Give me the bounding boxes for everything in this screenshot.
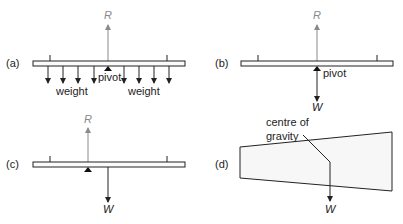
reaction-symbol: R [84,113,92,125]
beam [33,162,185,167]
weight-symbol: W [103,203,115,215]
panel-b: (b) R pivot W [215,9,393,113]
panel-d: (d) centre of gravity W [215,116,392,215]
weight-label-right: weight [127,85,160,97]
panel-a: (a) R pivot weight weight [6,9,185,97]
pivot-label: pivot [98,71,121,83]
weight-label-left: weight [55,85,88,97]
beam [241,61,393,66]
panel-c-label: (c) [6,158,19,170]
cog-label-line1: centre of [266,116,310,128]
lever-diagram: (a) R pivot weight weight (b) R pivot [0,0,403,224]
pivot-triangle-icon [84,167,92,172]
panel-a-label: (a) [6,57,19,69]
cog-label-line2: gravity [266,130,299,142]
reaction-symbol: R [104,9,112,21]
pivot-label: pivot [323,67,346,79]
weight-symbol: W [312,101,324,113]
weight-symbol: W [325,203,337,215]
beam [33,61,185,66]
pivot-triangle-icon [313,66,321,71]
panel-d-label: (d) [215,158,228,170]
tapered-object [240,132,392,191]
panel-c: (c) R W [6,113,185,215]
panel-b-label: (b) [215,57,228,69]
reaction-symbol: R [313,9,321,21]
